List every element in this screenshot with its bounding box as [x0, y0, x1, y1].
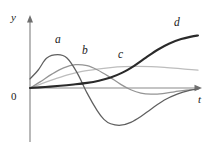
curve-label-b: b: [82, 45, 88, 57]
origin-label: 0: [11, 91, 17, 102]
x-axis-arrowhead: [195, 85, 203, 91]
curve-label-d: d: [174, 17, 180, 29]
t-axis-label: t: [198, 94, 201, 105]
y-axis-label: y: [11, 12, 16, 23]
curve-a-path: [30, 55, 198, 126]
figure-container: y 0 t a b c d: [0, 0, 209, 146]
curve-label-c: c: [118, 49, 123, 61]
y-axis-arrowhead: [27, 15, 33, 23]
curve-label-a: a: [55, 34, 61, 46]
